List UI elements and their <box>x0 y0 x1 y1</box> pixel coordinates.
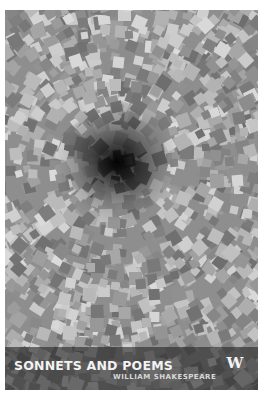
book-author: WILLIAM SHAKESPEARE <box>113 373 216 381</box>
mosaic-tile <box>256 155 258 166</box>
mosaic-tile <box>77 17 88 28</box>
mosaic-tile <box>229 206 239 216</box>
mosaic-tile <box>5 133 9 140</box>
mosaic-tile <box>125 31 133 39</box>
mosaic-tile <box>14 169 23 178</box>
mosaic-tile <box>232 111 246 125</box>
mosaic-tile <box>202 144 210 152</box>
mosaic-tile <box>177 80 188 91</box>
mosaic-tile <box>146 258 161 273</box>
mosaic-tile <box>81 31 89 39</box>
mosaic-tile <box>210 173 224 187</box>
mosaic-tile <box>97 81 105 89</box>
mosaic-tile <box>154 325 168 339</box>
mosaic-tile <box>231 174 243 186</box>
mosaic-tile <box>85 292 95 302</box>
mosaic-tile <box>48 68 58 78</box>
mosaic-tile <box>240 127 249 136</box>
book-cover: SONNETS AND POEMS WILLIAM SHAKESPEARE W <box>5 10 258 390</box>
mosaic-tile <box>92 68 103 79</box>
mosaic-tile <box>112 291 128 307</box>
mosaic-tile <box>225 156 235 166</box>
mosaic-tile <box>119 307 131 319</box>
mosaic-tile <box>100 335 110 345</box>
mosaic-tile <box>118 10 131 21</box>
mosaic-tile <box>131 81 142 92</box>
mosaic-tile <box>85 164 99 178</box>
mosaic-tile <box>10 148 23 161</box>
mosaic-tile <box>86 263 95 272</box>
mosaic-tile <box>110 335 121 346</box>
mosaic-tile <box>148 289 159 300</box>
mosaic-tile <box>107 269 118 280</box>
mosaic-tile <box>209 216 219 226</box>
mosaic-tile <box>66 277 77 288</box>
mosaic-tile <box>142 317 151 326</box>
mosaic-tile <box>237 153 248 164</box>
mosaic-artwork <box>5 10 258 390</box>
mosaic-tile <box>5 182 6 192</box>
mosaic-tile <box>154 11 169 26</box>
mosaic-tile <box>104 227 113 236</box>
publisher-logo-icon: W <box>226 356 244 370</box>
mosaic-tile <box>90 318 104 332</box>
mosaic-tile <box>170 159 178 167</box>
mosaic-tile <box>28 169 38 179</box>
mosaic-tile <box>109 40 119 50</box>
book-title: SONNETS AND POEMS <box>14 358 173 373</box>
mosaic-tile <box>112 56 124 68</box>
mosaic-tile <box>91 305 104 318</box>
mosaic-tile <box>100 254 111 265</box>
mosaic-tile <box>109 79 121 91</box>
mosaic-tile <box>200 167 210 177</box>
mosaic-tile <box>135 279 146 290</box>
